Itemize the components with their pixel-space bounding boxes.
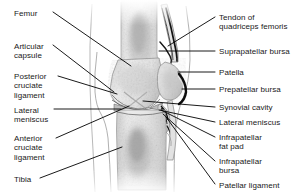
label-femur: Femur xyxy=(14,9,66,18)
label-infrapatellar-fat-pad: Infrapatellar fat pad xyxy=(219,133,305,152)
label-patellar-ligament: Patellar ligament xyxy=(219,181,305,190)
label-infrapatellar-bursa: Infrapatellar bursa xyxy=(219,157,305,176)
label-lateral-meniscus-right: Lateral meniscus xyxy=(219,118,305,127)
label-suprapatellar-bursa: Suprapatellar bursa xyxy=(219,47,305,56)
label-anterior-cruciate-ligament: Anterior cruciate ligament xyxy=(14,134,66,162)
label-synovial-cavity: Synovial cavity xyxy=(219,103,305,112)
label-tendon-of-quadriceps-femoris: Tendon of quadriceps femoris xyxy=(219,13,305,32)
label-posterior-cruciate-ligament: Posterior cruciate ligament xyxy=(14,72,66,100)
label-prepatellar-bursa: Prepatellar bursa xyxy=(219,85,305,94)
label-patella: Patella xyxy=(219,68,305,77)
knee-joint-figure: FemurArticular capsulePosterior cruciate… xyxy=(0,0,307,196)
label-tibia: Tibia xyxy=(14,175,66,184)
label-lateral-meniscus-left: Lateral meniscus xyxy=(14,106,66,125)
label-articular-capsule: Articular capsule xyxy=(14,42,66,61)
